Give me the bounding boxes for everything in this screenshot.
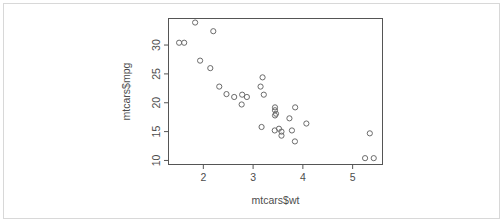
y-axis-ticks bbox=[164, 45, 169, 160]
x-tick-label-5: 5 bbox=[350, 171, 356, 183]
data-point bbox=[367, 131, 372, 136]
data-point-group bbox=[177, 20, 377, 161]
scatter-plot: 2345 1015202530 mtcars$wt mtcars$mpg bbox=[0, 0, 504, 223]
data-point bbox=[293, 105, 298, 110]
x-axis-ticks bbox=[203, 165, 352, 170]
data-point bbox=[304, 121, 309, 126]
x-axis-title: mtcars$wt bbox=[252, 194, 300, 206]
data-point bbox=[272, 113, 277, 118]
x-tick-label-2: 2 bbox=[200, 171, 206, 183]
data-point bbox=[198, 58, 203, 63]
y-tick-label-10: 10 bbox=[151, 154, 163, 166]
data-point bbox=[287, 116, 292, 121]
screenshot-root: 2345 1015202530 mtcars$wt mtcars$mpg bbox=[0, 0, 504, 223]
y-tick-label-30: 30 bbox=[151, 39, 163, 51]
data-point bbox=[240, 92, 245, 97]
x-tick-label-4: 4 bbox=[300, 171, 306, 183]
data-point bbox=[260, 75, 265, 80]
x-axis-tick-labels: 2345 bbox=[200, 171, 355, 183]
data-point bbox=[193, 20, 198, 25]
data-point bbox=[239, 102, 244, 107]
data-point bbox=[217, 84, 222, 89]
data-point bbox=[258, 84, 263, 89]
data-point bbox=[259, 124, 264, 129]
y-tick-label-15: 15 bbox=[151, 126, 163, 138]
plot-frame bbox=[169, 19, 383, 165]
data-point bbox=[208, 66, 213, 71]
x-tick-label-3: 3 bbox=[250, 171, 256, 183]
y-axis-title: mtcars$mpg bbox=[120, 62, 132, 120]
data-point bbox=[292, 139, 297, 144]
data-point bbox=[211, 29, 216, 34]
data-point bbox=[182, 40, 187, 45]
data-point bbox=[232, 94, 237, 99]
data-point bbox=[177, 40, 182, 45]
y-tick-label-20: 20 bbox=[151, 97, 163, 109]
data-point bbox=[289, 128, 294, 133]
plot-svg: 2345 1015202530 mtcars$wt mtcars$mpg bbox=[0, 0, 504, 223]
data-point bbox=[224, 92, 229, 97]
data-point bbox=[362, 156, 367, 161]
data-point bbox=[371, 156, 376, 161]
y-tick-label-25: 25 bbox=[151, 68, 163, 80]
data-point bbox=[261, 92, 266, 97]
y-axis-tick-labels: 1015202530 bbox=[151, 39, 163, 166]
